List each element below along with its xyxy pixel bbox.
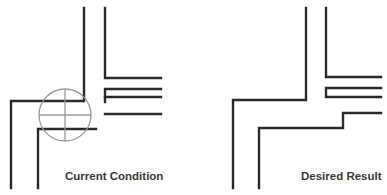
current-condition-caption: Current Condition: [65, 170, 163, 182]
outer-corner-wall: [233, 8, 306, 188]
outer-corner-wall: [11, 8, 84, 188]
diagram-canvas: [0, 0, 387, 195]
upper-right-wall: [105, 8, 161, 78]
desired-result-drawing: [233, 8, 381, 188]
bracket-wall: [326, 88, 381, 97]
bracket-wall: [105, 89, 161, 102]
upper-right-wall: [326, 8, 381, 77]
desired-result-caption: Desired Result: [301, 170, 382, 182]
current-condition-drawing: [11, 8, 161, 188]
misalignment-marker-icon: [39, 89, 91, 141]
